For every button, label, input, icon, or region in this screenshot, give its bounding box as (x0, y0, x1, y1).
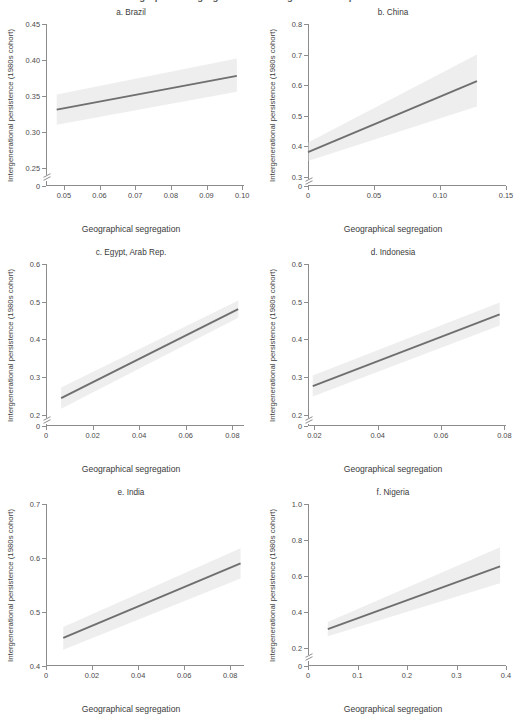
x-axis-tick-label: 0.15 (499, 191, 513, 200)
panel-title: a. Brazil (0, 8, 262, 17)
panel-title: d. Indonesia (262, 248, 524, 257)
x-axis-tick (46, 666, 47, 670)
y-axis-tick-label: 0.6 (292, 572, 302, 581)
panel-grid: a. BrazilIntergenerational persistence (… (0, 0, 524, 720)
series-layer (308, 24, 506, 186)
series-layer (308, 504, 506, 666)
x-axis-tick (504, 426, 505, 430)
y-axis-tick-label: 0.6 (292, 81, 302, 90)
x-axis-tick-label: 0.02 (85, 671, 99, 680)
y-axis-label-text: Intergenerational persistence (1980s coh… (6, 509, 15, 662)
fit-line (308, 81, 477, 152)
y-axis-tick-label: 0.3 (292, 373, 302, 382)
y-axis-label-text: Intergenerational persistence (1980s coh… (268, 269, 277, 422)
x-axis-tick-label: 0.02 (85, 431, 99, 440)
y-axis-label: Intergenerational persistence (1980s coh… (4, 504, 16, 666)
y-axis-tick-label: 0.4 (292, 608, 302, 617)
x-axis-tick-label: 0.2 (402, 671, 412, 680)
chart-panel-e: e. IndiaIntergenerational persistence (1… (0, 480, 262, 720)
plot-area: 0.20.30.40.50.600.020.040.060.08 (308, 264, 506, 426)
x-axis-tick (308, 186, 309, 190)
y-axis-label: Intergenerational persistence (1980s coh… (266, 24, 278, 186)
y-axis-tick-label: 0.7 (30, 500, 40, 509)
x-axis-tick (135, 186, 136, 190)
series-layer (46, 24, 244, 186)
x-axis-tick-label: 0.10 (433, 191, 447, 200)
x-axis-tick-label: 0.05 (367, 191, 381, 200)
x-axis-tick (441, 426, 442, 430)
x-axis-label: Geographical segregation (262, 224, 524, 234)
y-axis-tick-label: 0.5 (30, 297, 40, 306)
y-axis-tick-label: 0.4 (30, 662, 40, 671)
y-axis-zero-label: 0 (298, 662, 302, 671)
confidence-band (308, 55, 477, 161)
y-axis-tick-label: 0.4 (30, 335, 40, 344)
y-axis-tick-label: 0.7 (292, 50, 302, 59)
y-axis-zero-tick (304, 426, 308, 427)
y-axis-tick-label: 1.0 (292, 500, 302, 509)
x-axis-tick-label: 0.1 (352, 671, 362, 680)
x-axis-tick-label: 0.04 (131, 671, 145, 680)
y-axis-label: Intergenerational persistence (1980s coh… (4, 264, 16, 426)
plot-area: 0.20.30.40.50.6000.020.040.060.08 (46, 264, 244, 426)
x-axis-label: Geographical segregation (262, 464, 524, 474)
panel-title: b. China (262, 8, 524, 17)
fit-line (328, 566, 500, 629)
x-axis-tick (506, 186, 507, 190)
y-axis-tick-label: 0.3 (30, 373, 40, 382)
x-axis-tick (374, 186, 375, 190)
x-axis-tick (506, 666, 507, 670)
x-axis-tick-label: 0.04 (370, 431, 384, 440)
x-axis-tick-label: 0.06 (434, 431, 448, 440)
x-axis-tick-label: 0.4 (501, 671, 511, 680)
x-axis-tick (378, 426, 379, 430)
y-axis-tick-label: 0.8 (292, 20, 302, 29)
y-axis-tick-label: 0.6 (292, 260, 302, 269)
y-axis-tick-label: 0.4 (292, 335, 302, 344)
y-axis-tick-label: 0.2 (292, 410, 302, 419)
y-axis-tick-label: 0.2 (292, 644, 302, 653)
x-axis-tick (186, 426, 187, 430)
chart-panel-a: a. BrazilIntergenerational persistence (… (0, 0, 262, 240)
fit-line (63, 563, 240, 638)
x-axis-tick (308, 666, 309, 670)
chart-panel-b: b. ChinaIntergenerational persistence (1… (262, 0, 524, 240)
x-axis-tick-label: 0.07 (128, 191, 142, 200)
x-axis-tick (230, 666, 231, 670)
x-axis-tick (92, 666, 93, 670)
x-axis-tick-label: 0 (306, 671, 310, 680)
y-axis-label-text: Intergenerational persistence (1980s coh… (6, 29, 15, 182)
series-layer (46, 264, 244, 426)
plot-area: 0.30.40.50.60.70.8000.050.100.15 (308, 24, 506, 186)
x-axis-tick (139, 426, 140, 430)
x-axis-tick (46, 426, 47, 430)
chart-panel-c: c. Egypt, Arab Rep.Intergenerational per… (0, 240, 262, 480)
x-axis-tick-label: 0 (44, 431, 48, 440)
x-axis-tick (407, 666, 408, 670)
y-axis-tick-label: 0.5 (30, 608, 40, 617)
x-axis-tick (184, 666, 185, 670)
x-axis-tick-label: 0.3 (451, 671, 461, 680)
y-axis-tick-label: 0.35 (26, 92, 40, 101)
x-axis-tick (138, 666, 139, 670)
y-axis-tick-label: 0.45 (26, 20, 40, 29)
y-axis-zero-label: 0 (298, 182, 302, 191)
chart-panel-f: f. NigeriaIntergenerational persistence … (262, 480, 524, 720)
y-axis-label: Intergenerational persistence (1980s coh… (4, 24, 16, 186)
x-axis-tick (314, 426, 315, 430)
x-axis-label: Geographical segregation (0, 704, 262, 714)
panel-title: c. Egypt, Arab Rep. (0, 248, 262, 257)
x-axis-tick (93, 426, 94, 430)
x-axis-tick (358, 666, 359, 670)
x-axis-label: Geographical segregation (0, 464, 262, 474)
y-axis-tick-label: 0.5 (292, 297, 302, 306)
x-axis-tick-label: 0.02 (307, 431, 321, 440)
x-axis-tick (457, 666, 458, 670)
plot-area: 0.20.40.60.81.0000.10.20.30.4 (308, 504, 506, 666)
x-axis-label: Geographical segregation (262, 704, 524, 714)
y-axis-tick-label: 0.40 (26, 56, 40, 65)
y-axis-label: Intergenerational persistence (1980s coh… (266, 504, 278, 666)
plot-area: 0.250.300.350.400.4500.050.060.070.080.0… (46, 24, 244, 186)
x-axis-tick-label: 0.09 (199, 191, 213, 200)
x-axis-tick-label: 0.06 (177, 671, 191, 680)
